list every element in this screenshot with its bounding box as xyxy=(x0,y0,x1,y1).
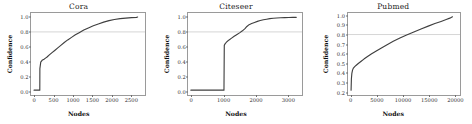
chart-title-cora: Cora xyxy=(0,2,157,11)
plot-svg-pubmed xyxy=(348,13,460,95)
x-axis-label-pubmed: Nodes xyxy=(315,110,472,117)
x-tick-mark xyxy=(131,95,132,97)
y-tick-label: 0.8 xyxy=(337,32,345,38)
x-tick-mark xyxy=(377,95,378,97)
figure-confidence-vs-nodes: Cora 0.00.20.40.60.81.0 0500100015002000… xyxy=(0,0,472,124)
y-tick-label: 0.0 xyxy=(178,89,186,95)
x-tick-mark xyxy=(351,95,352,97)
plot-svg-cora xyxy=(31,13,145,95)
y-tick-mark xyxy=(29,32,31,33)
plot-area-pubmed: 0.20.30.40.50.60.70.80.91.0 050001000015… xyxy=(347,12,461,96)
x-tick-label: 20000 xyxy=(447,97,464,103)
y-tick-mark xyxy=(186,47,188,48)
y-tick-mark xyxy=(346,63,348,64)
x-axis-label-citeseer: Nodes xyxy=(157,110,314,117)
y-tick-mark xyxy=(29,77,31,78)
y-tick-label: 0.4 xyxy=(337,70,345,76)
y-tick-label: 0.2 xyxy=(20,74,28,80)
plot-area-cora: 0.00.20.40.60.81.0 05001000150020002500 xyxy=(30,12,146,96)
y-tick-mark xyxy=(346,35,348,36)
x-tick-label: 2000 xyxy=(105,97,118,103)
y-tick-mark xyxy=(346,25,348,26)
y-tick-mark xyxy=(186,17,188,18)
y-tick-mark xyxy=(29,47,31,48)
x-tick-mark xyxy=(224,95,225,97)
y-tick-mark xyxy=(29,62,31,63)
x-tick-mark xyxy=(54,95,55,97)
y-tick-label: 0.3 xyxy=(337,80,345,86)
x-tick-label: 1000 xyxy=(66,97,79,103)
y-tick-mark xyxy=(346,73,348,74)
y-tick-label: 0.2 xyxy=(337,90,345,96)
y-tick-label: 1.0 xyxy=(20,14,28,20)
y-tick-label: 0.9 xyxy=(337,22,345,28)
x-tick-mark xyxy=(429,95,430,97)
chart-panel-citeseer: Citeseer 0.00.20.40.60.81.0 010002000300… xyxy=(157,0,314,124)
x-tick-mark xyxy=(73,95,74,97)
y-axis-label-citeseer: Confidence xyxy=(163,35,170,74)
chart-title-pubmed: Pubmed xyxy=(315,2,472,11)
y-tick-mark xyxy=(346,92,348,93)
plot-area-citeseer: 0.00.20.40.60.81.0 0100020003000 xyxy=(187,12,303,96)
x-tick-label: 15000 xyxy=(421,97,438,103)
x-tick-label: 10000 xyxy=(395,97,412,103)
x-tick-label: 500 xyxy=(49,97,59,103)
x-tick-mark xyxy=(256,95,257,97)
chart-panel-cora: Cora 0.00.20.40.60.81.0 0500100015002000… xyxy=(0,0,157,124)
series-line-pubmed xyxy=(351,17,452,90)
y-tick-label: 0.2 xyxy=(178,74,186,80)
x-tick-label: 1500 xyxy=(86,97,99,103)
y-tick-label: 0.6 xyxy=(20,44,28,50)
y-tick-mark xyxy=(29,17,31,18)
plot-svg-citeseer xyxy=(188,13,302,95)
chart-panel-pubmed: Pubmed 0.20.30.40.50.60.70.80.91.0 05000… xyxy=(315,0,472,124)
y-tick-label: 0.6 xyxy=(337,51,345,57)
y-axis-label-cora: Confidence xyxy=(6,35,13,74)
x-tick-mark xyxy=(92,95,93,97)
y-tick-mark xyxy=(186,77,188,78)
x-tick-mark xyxy=(191,95,192,97)
x-tick-label: 0 xyxy=(349,97,352,103)
x-tick-label: 1000 xyxy=(217,97,230,103)
x-tick-label: 3000 xyxy=(282,97,295,103)
x-axis-label-cora: Nodes xyxy=(0,110,157,117)
y-tick-label: 1.0 xyxy=(337,13,345,19)
y-axis-label-pubmed: Confidence xyxy=(321,35,328,74)
y-tick-label: 0.4 xyxy=(178,59,186,65)
x-tick-mark xyxy=(455,95,456,97)
y-tick-label: 0.4 xyxy=(20,59,28,65)
y-tick-mark xyxy=(346,15,348,16)
x-tick-label: 2500 xyxy=(125,97,138,103)
chart-title-citeseer: Citeseer xyxy=(157,2,314,11)
y-tick-mark xyxy=(346,54,348,55)
y-tick-mark xyxy=(186,62,188,63)
x-tick-label: 0 xyxy=(190,97,193,103)
y-tick-label: 0.0 xyxy=(20,89,28,95)
x-tick-mark xyxy=(34,95,35,97)
y-tick-label: 0.8 xyxy=(20,29,28,35)
y-tick-label: 0.6 xyxy=(178,44,186,50)
series-line-cora xyxy=(34,17,138,90)
y-tick-label: 1.0 xyxy=(178,14,186,20)
y-tick-mark xyxy=(186,92,188,93)
y-tick-mark xyxy=(346,83,348,84)
x-tick-mark xyxy=(288,95,289,97)
x-tick-label: 0 xyxy=(32,97,35,103)
y-tick-mark xyxy=(186,32,188,33)
y-tick-label: 0.8 xyxy=(178,29,186,35)
y-tick-mark xyxy=(346,44,348,45)
x-tick-mark xyxy=(403,95,404,97)
y-tick-mark xyxy=(29,92,31,93)
y-tick-label: 0.7 xyxy=(337,42,345,48)
x-tick-label: 5000 xyxy=(370,97,383,103)
y-tick-label: 0.5 xyxy=(337,61,345,67)
x-tick-label: 2000 xyxy=(249,97,262,103)
x-tick-mark xyxy=(112,95,113,97)
series-line-citeseer xyxy=(191,17,296,90)
